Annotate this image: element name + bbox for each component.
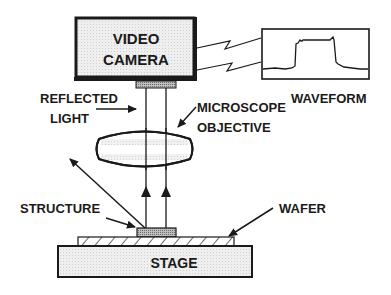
- signal-link: [197, 38, 261, 71]
- video-camera: VIDEO CAMERA: [74, 17, 197, 80]
- reflected-light-label-line2: LIGHT: [50, 111, 89, 126]
- microscope-objective: [97, 128, 193, 170]
- stage-label: STAGE: [150, 255, 197, 271]
- wafer: [78, 237, 234, 246]
- structure-label: STRUCTURE: [20, 201, 100, 216]
- reflected-light-label-line1: REFLECTED: [40, 91, 118, 106]
- stage: STAGE: [58, 246, 252, 277]
- beam-arrowhead-left: [141, 186, 151, 197]
- objective-pointer-arrow: [178, 107, 196, 127]
- objective-label-line2: OBJECTIVE: [197, 120, 271, 135]
- microscope-diagram: VIDEO CAMERA WAVEFORM REFLECTED LIGHT MI…: [0, 0, 391, 295]
- beam-arrowhead-right: [161, 186, 171, 197]
- waveform-display: WAVEFORM: [262, 29, 369, 106]
- camera-label-line2: CAMERA: [103, 51, 169, 68]
- objective-label-line1: MICROSCOPE: [197, 100, 286, 115]
- scattered-light-arrow: [70, 159, 145, 228]
- wafer-label: WAFER: [279, 201, 327, 216]
- structure-block: [137, 228, 176, 237]
- camera-label-line1: VIDEO: [113, 30, 160, 47]
- wafer-pointer-arrow: [229, 208, 273, 236]
- waveform-label: WAVEFORM: [291, 91, 367, 106]
- structure-pointer-arrow: [106, 218, 135, 227]
- camera-lens-mount: [136, 81, 176, 88]
